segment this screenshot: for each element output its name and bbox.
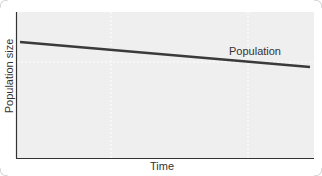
corner-decoration bbox=[314, 0, 322, 8]
corner-decoration bbox=[0, 168, 8, 176]
chart-figure: Population size Time Population bbox=[0, 0, 322, 176]
chart-svg bbox=[0, 0, 322, 176]
y-axis-label: Population size bbox=[3, 31, 15, 121]
corner-decoration bbox=[314, 168, 322, 176]
series-label-population: Population bbox=[229, 45, 281, 57]
x-axis-label: Time bbox=[150, 160, 174, 172]
corner-decoration bbox=[0, 0, 8, 8]
plot-area bbox=[17, 12, 314, 158]
